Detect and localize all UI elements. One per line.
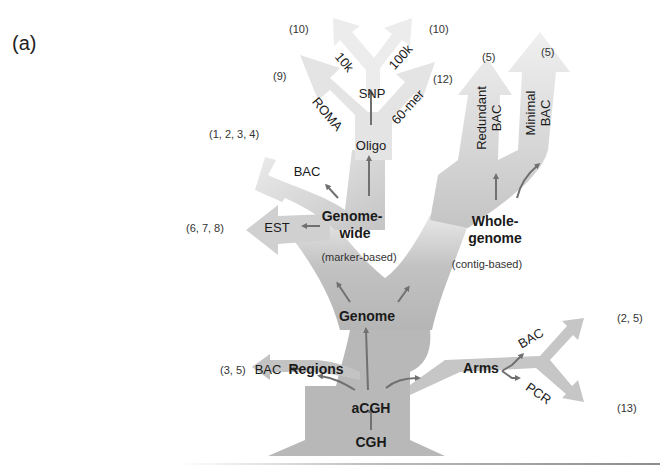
node-genome: Genome	[339, 308, 395, 324]
node-genome-wide-line1: Genome-	[322, 208, 383, 224]
node-acgh: aCGH	[352, 400, 391, 416]
ref-arms-pcr: (13)	[617, 402, 637, 414]
ref-genome-wide-bac: (1, 2, 3, 4)	[209, 128, 259, 140]
leaf-genome-wide-bac: BAC	[294, 164, 321, 179]
ref-minimal-bac: (5)	[541, 46, 554, 58]
node-snp: SNP	[359, 86, 386, 101]
node-arms: Arms	[463, 360, 499, 376]
node-whole-genome-line1: Whole-	[472, 213, 519, 229]
ref-arms-bac: (2, 5)	[617, 312, 643, 324]
acgh-technology-tree-diagram: (a)	[0, 0, 660, 467]
leaf-redundant-bac-line2: BAC	[489, 105, 504, 132]
leaf-minimal-bac-line2: BAC	[538, 100, 553, 127]
leaf-arms-bac: BAC	[515, 325, 546, 351]
ref-60-mer: (12)	[433, 73, 453, 85]
ref-redundant-bac: (5)	[482, 51, 495, 63]
node-whole-genome-note: (contig-based)	[452, 258, 522, 270]
node-genome-wide-line2: wide	[338, 225, 370, 241]
leaf-redundant-bac-line1: Redundant	[474, 86, 489, 150]
ref-snp-10k: (10)	[289, 23, 309, 35]
node-genome-wide-note: (marker-based)	[321, 251, 396, 263]
arrow-gw-bac	[327, 186, 338, 198]
arrow-arms-pcr	[502, 371, 518, 378]
leaf-est: EST	[264, 220, 289, 235]
leaf-regions-bac: BAC	[255, 362, 282, 377]
panel-label: (a)	[12, 32, 36, 54]
node-regions: Regions	[288, 361, 343, 377]
ref-snp-100k: (10)	[429, 23, 449, 35]
node-cgh: CGH	[355, 434, 386, 450]
ref-roma: (9)	[273, 70, 286, 82]
leaf-arms-pcr: PCR	[523, 379, 554, 407]
bottom-rule	[180, 463, 660, 465]
node-whole-genome-line2: genome	[468, 230, 522, 246]
leaf-minimal-bac-line1: Minimal	[523, 91, 538, 136]
ref-est: (6, 7, 8)	[186, 222, 224, 234]
node-oligo: Oligo	[356, 138, 386, 153]
ref-regions-bac: (3, 5)	[220, 364, 246, 376]
